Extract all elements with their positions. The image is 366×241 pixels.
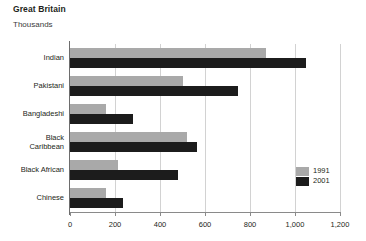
x-axis-tick-label: 600 bbox=[199, 220, 212, 229]
category-label-line: Black bbox=[0, 133, 64, 143]
x-axis-tick bbox=[115, 212, 116, 216]
x-gridline bbox=[250, 44, 251, 212]
legend-swatch-icon-2001 bbox=[296, 177, 309, 186]
bar-bangladeshi-2001 bbox=[70, 114, 133, 124]
bar-black-african-1991 bbox=[70, 160, 118, 170]
category-label-line: Indian bbox=[0, 53, 64, 63]
x-axis-tick bbox=[250, 212, 251, 216]
category-label-indian: Indian bbox=[0, 53, 66, 63]
bar-black-caribbean-1991 bbox=[70, 132, 187, 142]
bar-chinese-2001 bbox=[70, 198, 123, 208]
legend-label-2001: 2001 bbox=[313, 176, 330, 185]
category-label-line: Pakistani bbox=[0, 81, 64, 91]
x-gridline bbox=[115, 44, 116, 212]
x-axis-tick-label: 1,200 bbox=[331, 220, 350, 229]
x-axis-tick-label: 200 bbox=[109, 220, 122, 229]
x-axis-tick bbox=[340, 212, 341, 216]
category-label-pakistani: Pakistani bbox=[0, 81, 66, 91]
x-axis-tick bbox=[295, 212, 296, 216]
x-axis-tick-label: 800 bbox=[244, 220, 257, 229]
page-title: Great Britain bbox=[13, 4, 66, 14]
bar-indian-2001 bbox=[70, 58, 306, 68]
legend-item-2001: 2001 bbox=[296, 177, 350, 187]
category-label-bangladeshi: Bangladeshi bbox=[0, 109, 66, 119]
bar-chart: Great Britain Thousands 1991 2001 020040… bbox=[0, 0, 366, 241]
legend-label-1991: 1991 bbox=[313, 166, 330, 175]
category-label-black-caribbean: BlackCaribbean bbox=[0, 133, 66, 152]
bar-pakistani-2001 bbox=[70, 86, 238, 96]
x-axis-tick-label: 0 bbox=[68, 220, 72, 229]
bar-bangladeshi-1991 bbox=[70, 104, 106, 114]
legend-swatch-icon-1991 bbox=[296, 167, 309, 176]
category-label-black-african: Black African bbox=[0, 165, 66, 175]
bar-indian-1991 bbox=[70, 48, 266, 58]
x-gridline bbox=[205, 44, 206, 212]
category-label-line: Caribbean bbox=[0, 142, 64, 152]
bar-pakistani-1991 bbox=[70, 76, 183, 86]
x-axis-tick bbox=[70, 212, 71, 216]
category-label-line: Black African bbox=[0, 165, 64, 175]
bar-black-caribbean-2001 bbox=[70, 142, 197, 152]
x-axis-tick-label: 1,000 bbox=[286, 220, 305, 229]
x-axis-tick-label: 400 bbox=[154, 220, 167, 229]
bar-chinese-1991 bbox=[70, 188, 106, 198]
chart-legend: 1991 2001 bbox=[296, 167, 350, 191]
x-gridline bbox=[160, 44, 161, 212]
x-axis-tick bbox=[160, 212, 161, 216]
category-label-line: Chinese bbox=[0, 193, 64, 203]
bar-black-african-2001 bbox=[70, 170, 178, 180]
chart-units-label: Thousands bbox=[13, 20, 53, 29]
category-label-chinese: Chinese bbox=[0, 193, 66, 203]
x-axis-tick bbox=[205, 212, 206, 216]
category-label-line: Bangladeshi bbox=[0, 109, 64, 119]
